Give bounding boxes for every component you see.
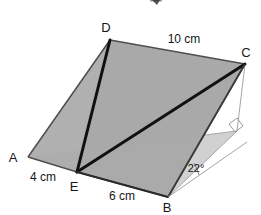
vertex-label-a: A xyxy=(9,150,18,165)
label-edge-eb: 6 cm xyxy=(109,189,135,203)
geometry-figure: A B C D E 10 cm 4 cm 6 cm 22° xyxy=(0,0,261,215)
vertex-label-d: D xyxy=(101,20,110,35)
label-edge-ae: 4 cm xyxy=(30,170,56,184)
vertex-label-c: C xyxy=(241,45,250,60)
label-edge-dc: 10 cm xyxy=(168,32,201,46)
faces-group xyxy=(28,40,245,197)
label-angle-b: 22° xyxy=(188,162,205,174)
top-crop-artifact xyxy=(150,0,162,5)
right-angle-marker xyxy=(229,118,243,132)
prism-diagram: A B C D E 10 cm 4 cm 6 cm 22° xyxy=(0,0,261,215)
vertex-label-b: B xyxy=(163,200,172,215)
vertex-label-e: E xyxy=(70,179,79,194)
